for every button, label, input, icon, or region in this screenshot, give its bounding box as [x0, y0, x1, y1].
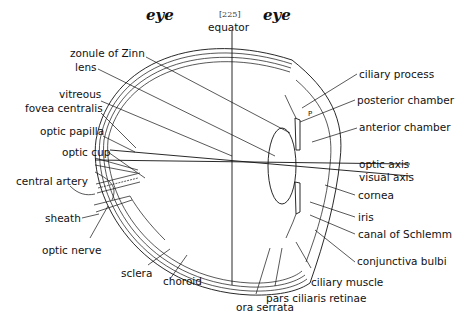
label-ciliary-process: ciliary process [359, 68, 434, 80]
label-choroid: choroid [163, 275, 202, 287]
label-conjunctiva-bulbi: conjunctiva bulbi [357, 255, 447, 267]
right-leaders [300, 74, 357, 262]
label-optic-cup: optic cup [62, 146, 111, 158]
label-anterior-chamber: anterior chamber [359, 121, 451, 133]
label-visual-axis: visual axis [359, 171, 414, 183]
label-optic-axis: optic axis [359, 158, 409, 170]
label-central-artery: central artery [16, 175, 88, 187]
label-lens: lens [75, 61, 97, 73]
label-zonule-of-zinn: zonule of Zinn [70, 47, 145, 59]
eyeball-layers [95, 49, 310, 296]
label-ciliary-muscle: ciliary muscle [311, 276, 383, 288]
label-fovea-centralis: fovea centralis [25, 102, 103, 114]
label-canal-of-schlemm: canal of Schlemm [358, 228, 452, 240]
iris-upper [295, 118, 300, 150]
label-sclera: sclera [121, 267, 152, 279]
iris-lower [295, 182, 300, 214]
label-sheath: sheath [45, 212, 81, 224]
p-mark: P [308, 110, 312, 118]
label-iris: iris [358, 211, 374, 223]
eye-diagram: P [0, 0, 471, 324]
label-optic-papilla: optic papilla [40, 125, 104, 137]
label-optic-nerve: optic nerve [42, 244, 101, 256]
label-cornea: cornea [358, 189, 394, 201]
label-vitreous: vitreous [59, 88, 101, 100]
cornea-outline [292, 60, 341, 283]
label-pars-ciliaris-retinae: pars ciliaris retinae [266, 292, 366, 304]
label-posterior-chamber: posterior chamber [357, 94, 455, 106]
label-equator: equator [208, 21, 250, 33]
